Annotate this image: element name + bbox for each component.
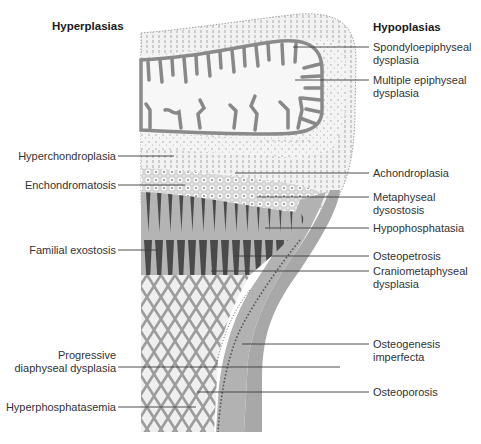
label-line1: Spondyloepiphyseal [373,41,471,54]
label-line1: Craniometaphyseal [373,265,468,278]
label-multiple-epiphyseal-dysplasia: Multiple epiphyseal dysplasia [373,74,467,99]
hypoplasias-heading: Hypoplasias [373,21,441,33]
label-osteogenesis-imperfecta: Osteogenesis imperfecta [373,338,440,363]
label-line2: dysostosis [373,204,435,217]
label-enchondromatosis: Enchondromatosis [25,179,116,192]
label-hypophosphatasia: Hypophosphatasia [373,222,464,235]
label-line1: Osteogenesis [373,338,440,351]
label-line2: dysplasia [373,278,468,291]
hyperplasias-heading: Hyperplasias [52,20,124,32]
label-line2: dysplasia [373,87,467,100]
label-metaphyseal-dysostosis: Metaphyseal dysostosis [373,191,435,216]
label-line1: Progressive [14,349,116,362]
label-line2: dysplasia [373,54,471,67]
bone-dysplasia-diagram: Hyperplasias Hypoplasias Hyperchondropla… [0,0,481,444]
label-line2: imperfecta [373,351,440,364]
label-line1: Multiple epiphyseal [373,74,467,87]
label-hyperchondroplasia: Hyperchondroplasia [18,150,116,163]
label-hyperphosphatasemia: Hyperphosphatasemia [6,401,116,414]
label-craniometaphyseal-dysplasia: Craniometaphyseal dysplasia [373,265,468,290]
label-spondyloepiphyseal-dysplasia: Spondyloepiphyseal dysplasia [373,41,471,66]
label-line1: Metaphyseal [373,191,435,204]
label-line2: diaphyseal dysplasia [14,362,116,375]
label-osteoporosis: Osteoporosis [373,386,438,399]
label-osteopetrosis: Osteopetrosis [373,250,441,263]
label-progressive-diaphyseal-dysplasia: Progressive diaphyseal dysplasia [14,349,116,374]
label-achondroplasia: Achondroplasia [373,167,449,180]
label-familial-exostosis: Familial exostosis [29,244,116,257]
